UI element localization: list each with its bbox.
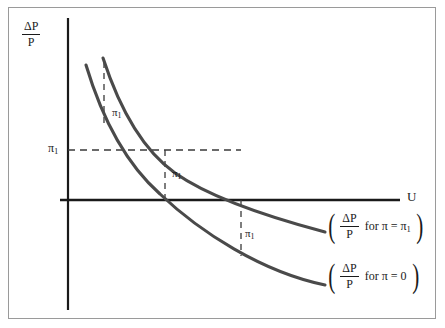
phillips-curve-figure: ΔP P U π1 π1 π1 π1 ( ΔP P for π = π1 ) (…	[0, 0, 445, 328]
annotation-subscript-1: 1	[118, 111, 122, 120]
y-axis-label-denominator: P	[22, 35, 40, 49]
annotation-shift-gap-middle: π1	[172, 168, 182, 181]
legend-1-condition-subscript: 1	[407, 224, 411, 234]
legend-2-condition-text: for π = 0	[365, 269, 407, 283]
legend-1-open-paren: (	[328, 213, 335, 240]
annotation-shift-gap-upper: π1	[112, 107, 122, 120]
legend-2-close-paren: )	[412, 263, 419, 290]
legend-1-fraction: ΔP P	[337, 212, 361, 241]
legend-1-numerator: ΔP	[340, 212, 358, 227]
y-axis-tick-label: π1	[48, 142, 58, 156]
annotation-subscript-3: 1	[251, 232, 255, 241]
y-axis-label-fraction: ΔP P	[22, 20, 40, 49]
annotation-subscript-2: 1	[178, 172, 182, 181]
legend-curve-pi-equals-zero: ( ΔP P for π = 0 )	[326, 262, 421, 291]
annotation-shift-gap-lower: π1	[245, 228, 255, 241]
legend-2-numerator: ΔP	[340, 262, 358, 277]
y-axis-label: ΔP P	[22, 20, 40, 49]
y-axis-label-numerator: ΔP	[22, 20, 40, 35]
legend-curve-pi-equals-pi1: ( ΔP P for π = π1 )	[326, 212, 425, 241]
legend-2-open-paren: (	[328, 263, 335, 290]
legend-2-condition: for π = 0	[362, 269, 410, 284]
x-axis-label: U	[407, 190, 416, 203]
legend-1-close-paren: )	[416, 213, 423, 240]
legend-2-denominator: P	[340, 277, 358, 291]
curve-pi-equals-zero	[86, 65, 325, 285]
curve-pi-equals-pi1	[103, 58, 325, 232]
legend-1-condition-text: for π = π	[365, 219, 407, 233]
legend-1-denominator: P	[340, 227, 358, 241]
legend-2-fraction: ΔP P	[337, 262, 361, 291]
y-axis-tick-subscript: 1	[54, 146, 58, 156]
legend-1-condition: for π = π1	[362, 219, 414, 234]
